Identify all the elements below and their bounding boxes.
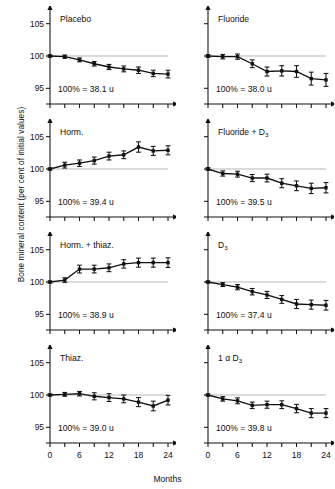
baseline-label: 100% = 39.4 u <box>58 197 114 207</box>
svg-text:95: 95 <box>35 83 45 93</box>
svg-text:105: 105 <box>30 19 44 29</box>
panel-thiaz: 9510010506121824Thiaz.100% = 39.0 u <box>18 345 176 461</box>
panel-title: Fluoride + D3 <box>218 127 269 138</box>
svg-text:95: 95 <box>35 422 45 432</box>
svg-text:24: 24 <box>163 450 173 460</box>
svg-text:12: 12 <box>104 450 114 460</box>
baseline-label: 100% = 39.8 u <box>216 423 272 433</box>
panel-d3: D3100% = 37.4 u <box>176 232 334 345</box>
panel-fluoride: Fluoride100% = 38.0 u <box>176 6 334 119</box>
baseline-label: 100% = 39.5 u <box>216 197 272 207</box>
x-axis-caption: Months <box>0 474 335 484</box>
svg-text:6: 6 <box>77 450 82 460</box>
baseline-label: 100% = 37.4 u <box>216 310 272 320</box>
panel-title: Fluoride <box>218 14 249 24</box>
baseline-label: 100% = 38.0 u <box>216 84 272 94</box>
bone-mineral-content-figure: Bone mineral content (per cent of initia… <box>0 0 335 489</box>
panel-title: Placebo <box>60 14 91 24</box>
svg-text:24: 24 <box>321 450 331 460</box>
svg-text:12: 12 <box>262 450 272 460</box>
svg-text:95: 95 <box>35 309 45 319</box>
panel-title: Horm. + thiaz. <box>60 240 114 250</box>
svg-text:18: 18 <box>292 450 302 460</box>
svg-text:105: 105 <box>30 132 44 142</box>
panel-horm-thiaz: 95100105Horm. + thiaz.100% = 38.9 u <box>18 232 176 345</box>
svg-text:0: 0 <box>206 450 211 460</box>
svg-text:100: 100 <box>30 277 44 287</box>
svg-text:100: 100 <box>30 390 44 400</box>
panel-placebo: 95100105Placebo100% = 38.1 u <box>18 6 176 119</box>
panel-title: Horm. <box>60 127 83 137</box>
baseline-label: 100% = 38.9 u <box>58 310 114 320</box>
svg-text:105: 105 <box>30 358 44 368</box>
svg-text:100: 100 <box>30 164 44 174</box>
panel-title: Thiaz. <box>60 353 83 363</box>
baseline-label: 100% = 39.0 u <box>58 423 114 433</box>
svg-text:18: 18 <box>134 450 144 460</box>
panel-grid: 95100105Placebo100% = 38.1 uFluoride100%… <box>18 6 335 461</box>
svg-text:105: 105 <box>30 245 44 255</box>
panel-title: 1 α D3 <box>218 353 243 364</box>
svg-text:100: 100 <box>30 51 44 61</box>
svg-text:0: 0 <box>48 450 53 460</box>
svg-text:95: 95 <box>35 196 45 206</box>
panel-one-alpha-d3: 061218241 α D3100% = 39.8 u <box>176 345 334 461</box>
panel-fluoride-d3: Fluoride + D3100% = 39.5 u <box>176 119 334 232</box>
panel-title: D3 <box>218 240 228 251</box>
baseline-label: 100% = 38.1 u <box>58 84 114 94</box>
svg-text:6: 6 <box>235 450 240 460</box>
panel-horm: 95100105Horm.100% = 39.4 u <box>18 119 176 232</box>
